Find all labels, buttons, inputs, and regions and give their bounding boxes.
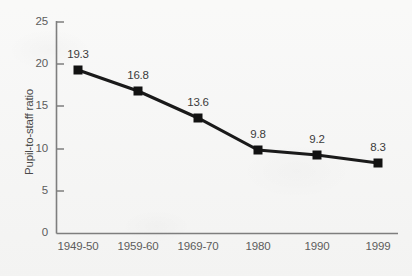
data-label-9-2: 9.2 xyxy=(297,133,337,145)
y-tick-label-20: 20 xyxy=(18,57,48,69)
y-tick-label-15: 15 xyxy=(18,99,48,111)
data-point-marker xyxy=(194,114,203,123)
series-line-pupil-to-staff-ratio xyxy=(78,70,378,163)
data-point-marker xyxy=(74,66,83,75)
y-tick-label-5: 5 xyxy=(18,184,48,196)
data-label-19-3: 19.3 xyxy=(58,48,98,60)
y-tick-label-10: 10 xyxy=(18,142,48,154)
y-tick-label-25: 25 xyxy=(18,15,48,27)
data-label-9-8: 9.8 xyxy=(238,128,278,140)
data-point-marker xyxy=(374,159,383,168)
chart-plot-area xyxy=(0,0,412,276)
x-tick-label-1999: 1999 xyxy=(338,240,412,252)
data-label-13-6: 13.6 xyxy=(178,96,218,108)
data-point-marker xyxy=(254,146,263,155)
data-point-marker xyxy=(134,87,143,96)
data-point-marker xyxy=(313,151,322,160)
data-label-8-3: 8.3 xyxy=(358,141,398,153)
data-label-16-8: 16.8 xyxy=(118,69,158,81)
y-tick-label-0: 0 xyxy=(18,226,48,238)
chart-figure: Pupil-to-staff ratio 25 20 15 10 5 0 194… xyxy=(0,0,412,276)
